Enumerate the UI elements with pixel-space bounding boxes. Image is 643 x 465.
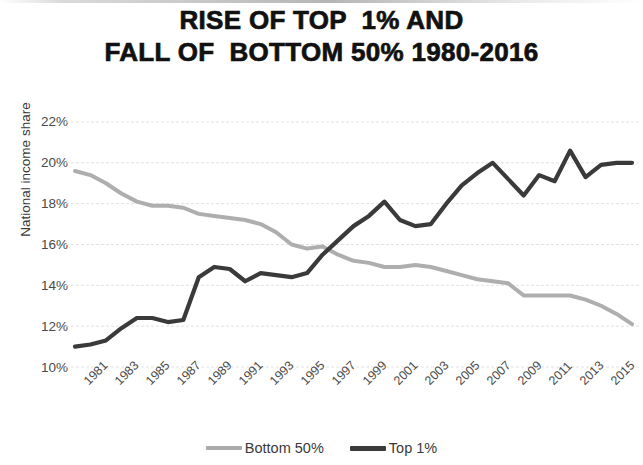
x-tick-label: 2001 bbox=[391, 358, 421, 388]
legend-item-top-1: Top 1% bbox=[350, 441, 437, 456]
x-tick-label: 1983 bbox=[112, 358, 142, 388]
legend-swatch-top-1 bbox=[350, 446, 386, 451]
x-tick-label: 2009 bbox=[515, 358, 545, 388]
x-tick-label: 1991 bbox=[236, 358, 266, 388]
x-tick-label: 1987 bbox=[174, 358, 204, 388]
x-tick-label: 1997 bbox=[329, 358, 359, 388]
legend-item-bottom-50: Bottom 50% bbox=[206, 441, 324, 456]
chart-figure: RISE OF TOP 1% AND FALL OF BOTTOM 50% 19… bbox=[0, 0, 643, 465]
x-tick-label: 1993 bbox=[267, 358, 297, 388]
x-tick-label: 1985 bbox=[143, 358, 173, 388]
x-tick-label: 2013 bbox=[577, 358, 607, 388]
x-axis-tick-labels: 1981198319851987198919911993199519971999… bbox=[0, 0, 643, 465]
x-tick-label: 2005 bbox=[453, 358, 483, 388]
x-tick-label: 2011 bbox=[546, 359, 575, 388]
x-tick-label: 1999 bbox=[360, 358, 390, 388]
legend-swatch-bottom-50 bbox=[206, 446, 242, 450]
x-tick-label: 2003 bbox=[422, 358, 452, 388]
x-tick-label: 1995 bbox=[298, 358, 328, 388]
chart-legend: Bottom 50% Top 1% bbox=[0, 441, 643, 456]
x-tick-label: 1989 bbox=[205, 358, 235, 388]
x-tick-label: 2015 bbox=[608, 358, 638, 388]
legend-label-bottom-50: Bottom 50% bbox=[245, 441, 324, 456]
x-tick-label: 1981 bbox=[81, 358, 111, 388]
legend-label-top-1: Top 1% bbox=[389, 441, 437, 456]
plot-area: National income share 22% 20% 18% 16% 14… bbox=[0, 0, 643, 465]
x-tick-label: 2007 bbox=[484, 358, 514, 388]
